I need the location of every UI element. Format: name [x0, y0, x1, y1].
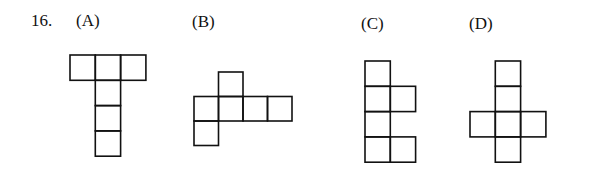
net-square	[95, 131, 120, 156]
net-square	[194, 121, 219, 146]
net-square	[495, 86, 520, 111]
net-square	[365, 137, 390, 162]
net-b	[194, 72, 292, 146]
net-square	[470, 112, 495, 137]
net-square	[390, 137, 415, 162]
net-square	[95, 106, 120, 131]
net-square	[95, 80, 120, 105]
net-d	[470, 61, 546, 162]
cube-nets-figure	[0, 0, 589, 173]
net-square	[495, 137, 520, 162]
net-square	[95, 55, 120, 80]
net-square	[365, 61, 390, 86]
net-c	[365, 61, 416, 162]
net-square	[495, 61, 520, 86]
net-square	[243, 97, 268, 122]
net-square	[390, 86, 415, 111]
net-a	[70, 55, 146, 156]
net-square	[495, 112, 520, 137]
net-square	[70, 55, 95, 80]
net-square	[194, 97, 219, 122]
net-square	[268, 97, 293, 122]
net-square	[521, 112, 546, 137]
net-square	[219, 72, 244, 97]
net-square	[121, 55, 146, 80]
net-square	[365, 112, 390, 137]
net-square	[365, 86, 390, 111]
net-square	[219, 97, 244, 122]
